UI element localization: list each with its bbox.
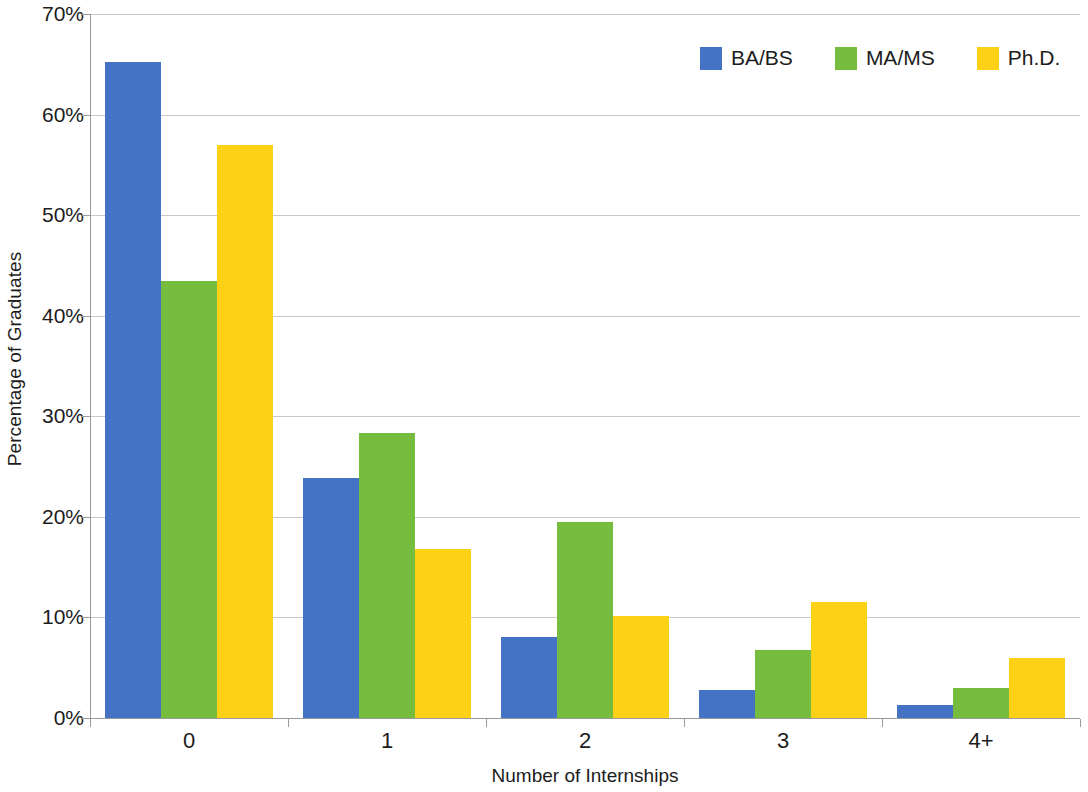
x-axis-tick-label: 1 <box>381 728 393 754</box>
y-axis-tick-mark <box>82 115 91 116</box>
bar-ph-d-4plus[interactable] <box>1009 658 1065 718</box>
legend-label: MA/MS <box>866 46 935 70</box>
bar-ba-bs-3[interactable] <box>699 690 755 718</box>
y-axis-tick-label: 60% <box>20 103 84 127</box>
y-axis-tick-label: 50% <box>20 203 84 227</box>
bar-ma-ms-2[interactable] <box>557 522 613 718</box>
legend-swatch-icon <box>700 47 722 70</box>
bar-ba-bs-2[interactable] <box>501 637 557 718</box>
x-axis-tick-mark <box>882 719 883 727</box>
y-axis-tick-mark <box>82 617 91 618</box>
legend-swatch-icon <box>835 47 857 70</box>
legend-item-ph-d[interactable]: Ph.D. <box>977 46 1061 70</box>
bar-ph-d-3[interactable] <box>811 602 867 718</box>
x-axis-tick-label: 2 <box>579 728 591 754</box>
y-axis-tick-label: 70% <box>20 2 84 26</box>
bar-ph-d-1[interactable] <box>415 549 471 718</box>
x-axis-tick-label: 3 <box>777 728 789 754</box>
y-axis-tick-mark <box>82 215 91 216</box>
legend-label: Ph.D. <box>1008 46 1061 70</box>
x-axis-tick-mark <box>1080 719 1081 727</box>
bar-ph-d-0[interactable] <box>217 145 273 718</box>
x-axis-tick-label: 4+ <box>968 728 993 754</box>
legend-item-ma-ms[interactable]: MA/MS <box>835 46 935 70</box>
bar-ba-bs-4plus[interactable] <box>897 705 953 718</box>
bar-ma-ms-1[interactable] <box>359 433 415 718</box>
y-axis-tick-label: 40% <box>20 304 84 328</box>
y-axis-tick-mark <box>82 14 91 15</box>
y-axis-tick-label: 30% <box>20 404 84 428</box>
plot-area <box>90 14 1080 718</box>
y-axis-tick-mark <box>82 416 91 417</box>
bar-group <box>288 14 486 718</box>
bar-group <box>882 14 1080 718</box>
x-axis-tick-label: 0 <box>183 728 195 754</box>
x-axis-tick-mark <box>684 719 685 727</box>
bar-ma-ms-3[interactable] <box>755 650 811 718</box>
y-axis-tick-label: 0% <box>20 706 84 730</box>
bar-group <box>90 14 288 718</box>
x-axis-tick-mark <box>288 719 289 727</box>
x-axis-line <box>90 718 1080 719</box>
x-axis-title: Number of Internships <box>90 765 1080 787</box>
y-axis-tick-label: 20% <box>20 505 84 529</box>
bar-chart: Percentage of Graduates 0%10%20%30%40%50… <box>0 0 1088 792</box>
x-axis-tick-mark <box>486 719 487 727</box>
bar-ba-bs-0[interactable] <box>105 62 161 718</box>
y-axis-tick-mark <box>82 316 91 317</box>
bar-group <box>486 14 684 718</box>
y-axis-tick-mark <box>82 517 91 518</box>
bar-ph-d-2[interactable] <box>613 616 669 718</box>
x-axis-tick-mark <box>90 719 91 727</box>
legend-item-ba-bs[interactable]: BA/BS <box>700 46 793 70</box>
legend: BA/BSMA/MSPh.D. <box>700 46 1060 70</box>
bar-group <box>684 14 882 718</box>
legend-swatch-icon <box>977 47 999 70</box>
legend-label: BA/BS <box>731 46 793 70</box>
bar-ma-ms-0[interactable] <box>161 281 217 718</box>
bar-ba-bs-1[interactable] <box>303 478 359 718</box>
y-axis-tick-label: 10% <box>20 605 84 629</box>
y-axis-tick-labels: 0%10%20%30%40%50%60%70% <box>18 0 84 792</box>
bar-ma-ms-4plus[interactable] <box>953 688 1009 718</box>
